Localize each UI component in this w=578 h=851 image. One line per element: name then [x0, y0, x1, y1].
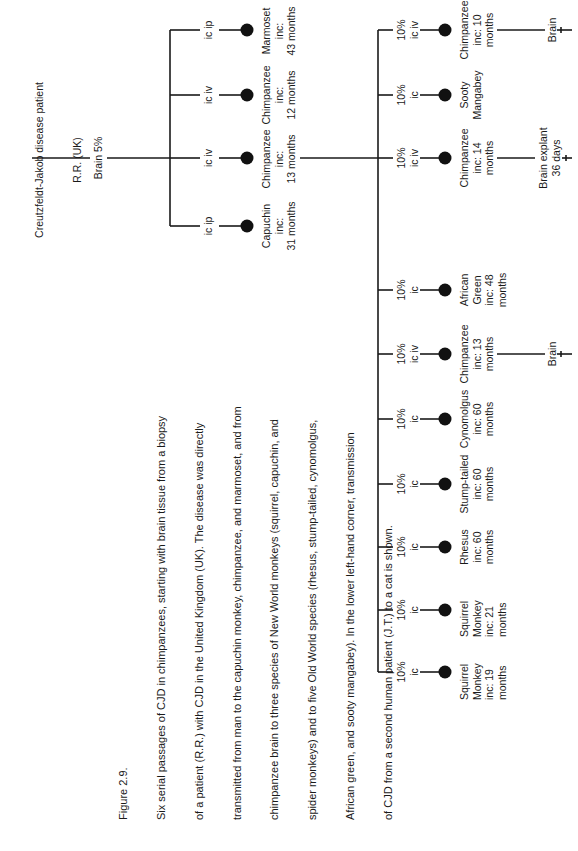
animal-label-chimpanzee: Chimpanzee inc: 13 months — [260, 126, 298, 192]
caption-line: of a patient (R.R.) with CJD in the Unit… — [193, 280, 206, 820]
route-label: 10% ic iv — [395, 138, 420, 178]
root-inoculum-label: Brain 5% — [92, 128, 105, 188]
animal-label-stump-tailed: Stump-tailed inc: 60 months — [458, 451, 496, 517]
route-label: ic ip — [202, 206, 215, 246]
caption-line: spider monkeys) and to five Old World sp… — [306, 280, 319, 820]
caption-line: of CJD from a second human patient (J.T.… — [382, 280, 395, 820]
route-label: 10% ic — [395, 652, 420, 692]
caption-line: transmitted from man to the capuchin mon… — [231, 280, 244, 820]
animal-label-chimpanzee: Chimpanzee inc: 10 months — [458, 0, 496, 63]
animal-label-squirrel-monkey: Squirrel Monkey inc: 19 months — [458, 640, 508, 700]
animal-label-cynomolgus: Cynomolgus inc: 60 months — [458, 386, 496, 452]
root-patient-label: Creutzfeldt-Jakob disease patient R.R. (… — [8, 60, 96, 260]
animal-label-chimpanzee: Chimpanzee inc: 12 months — [260, 62, 298, 128]
animal-label-marmoset: Marmoset inc: 43 months — [260, 0, 298, 64]
route-label: ic iv — [202, 138, 215, 178]
next-passage-label: Brain — [546, 10, 559, 50]
root-line2: R.R. (UK) — [71, 60, 84, 260]
animal-label-squirrel-monkey: Squirrel Monkey inc: 21 months — [458, 577, 508, 637]
animal-label-african-green: African Green inc: 48 months — [458, 257, 508, 323]
next-passage-label: Brain explant 36 days — [537, 120, 562, 196]
animal-label-chimpanzee: Chimpanzee inc: 13 months — [458, 321, 496, 387]
route-label: 10% ic iv — [395, 334, 420, 374]
next-passage-label: Brain — [546, 334, 559, 374]
animal-label-chimpanzee: Chimpanzee inc: 14 months — [458, 125, 496, 191]
route-label: 10% ic — [395, 270, 420, 310]
route-label: 10% ic iv — [395, 10, 420, 50]
route-label: 10% ic — [395, 590, 420, 630]
route-label: 10% ic — [395, 399, 420, 439]
animal-label-rhesus: Rhesus inc: 60 months — [458, 514, 496, 580]
animal-label-sooty-mangabey: Sooty Mangabey — [458, 62, 483, 128]
animal-label-capuchin: Capuchin inc: 31 months — [260, 194, 298, 258]
route-label: ic iv — [202, 75, 215, 115]
caption-line: Six serial passages of CJD in chimpanzee… — [155, 280, 168, 820]
caption-line: African green, and sooty mangabey). In t… — [344, 280, 357, 820]
route-label: 10% ic — [395, 464, 420, 504]
figure-caption: Figure 2.9. Six serial passages of CJD i… — [92, 280, 407, 820]
route-label: ic ip — [202, 10, 215, 50]
root-line1: Creutzfeldt-Jakob disease patient — [33, 60, 46, 260]
caption-title: Figure 2.9. — [117, 280, 130, 820]
route-label: 10% ic — [395, 75, 420, 115]
caption-line: chimpanzee brain to three species of New… — [268, 280, 281, 820]
route-label: 10% ic — [395, 527, 420, 567]
